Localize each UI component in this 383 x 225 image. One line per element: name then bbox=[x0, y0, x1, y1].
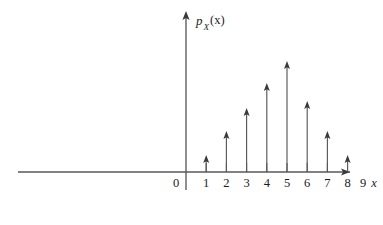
stems-group bbox=[203, 61, 350, 172]
x-tick-labels: 0 1 2 3 4 5 6 7 8 9 bbox=[173, 176, 366, 190]
stem-x5 bbox=[284, 61, 290, 172]
stem-x8 bbox=[345, 155, 351, 172]
xtick-label-2: 2 bbox=[223, 176, 229, 190]
xtick-label-8: 8 bbox=[344, 176, 350, 190]
stem-x4 bbox=[264, 83, 270, 172]
y-axis-label-main: p bbox=[195, 13, 203, 28]
xtick-label-6: 6 bbox=[304, 176, 310, 190]
stem-x6 bbox=[304, 101, 310, 172]
y-axis-label-subscript: X bbox=[203, 22, 210, 32]
y-axis-label: p X (x) bbox=[195, 13, 225, 32]
xtick-label-9: 9 bbox=[360, 176, 366, 190]
stem-plot-figure: 0 1 2 3 4 5 6 7 8 9 x p X (x) bbox=[0, 0, 383, 225]
stem-x7 bbox=[324, 131, 330, 172]
stem-x2 bbox=[223, 131, 229, 172]
xtick-label-7: 7 bbox=[324, 176, 330, 190]
xtick-label-1: 1 bbox=[203, 176, 209, 190]
xtick-label-3: 3 bbox=[243, 176, 249, 190]
xtick-label-4: 4 bbox=[264, 176, 271, 190]
x-axis-label: x bbox=[370, 176, 377, 190]
y-axis-label-argument: (x) bbox=[210, 13, 225, 27]
stem-x3 bbox=[244, 108, 250, 172]
xtick-label-5: 5 bbox=[284, 176, 290, 190]
stem-x1 bbox=[203, 155, 209, 172]
xtick-label-0: 0 bbox=[173, 176, 179, 190]
pmf-stem-chart: 0 1 2 3 4 5 6 7 8 9 x p X (x) bbox=[0, 0, 383, 225]
